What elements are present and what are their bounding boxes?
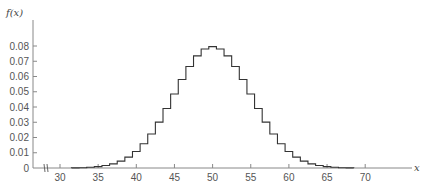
y-tick-label: 0.08: [10, 41, 30, 52]
y-tick-label: 0: [23, 163, 29, 174]
x-axis-label: x: [414, 162, 420, 173]
axis-break-mark: [47, 164, 48, 172]
y-tick-label: 0.06: [10, 71, 30, 82]
x-tick-label: 30: [54, 172, 66, 183]
x-tick-label: 35: [93, 172, 105, 183]
tick-labels: 00.010.020.030.040.050.060.070.083035404…: [5, 7, 420, 183]
x-tick-label: 65: [321, 172, 333, 183]
x-tick-label: 45: [169, 172, 181, 183]
probability-steps: [71, 47, 353, 168]
y-tick-label: 0.05: [10, 86, 30, 97]
step-chart: 00.010.020.030.040.050.060.070.083035404…: [0, 0, 425, 189]
y-tick-label: 0.01: [10, 147, 30, 158]
axes: [33, 20, 412, 172]
axis-break-mark: [44, 164, 45, 172]
step-series: [71, 47, 353, 168]
y-axis-label: f(x): [5, 7, 23, 18]
x-tick-label: 60: [283, 172, 295, 183]
y-tick-label: 0.07: [10, 56, 30, 67]
x-tick-label: 70: [360, 172, 372, 183]
x-tick-label: 50: [207, 172, 219, 183]
y-tick-label: 0.02: [10, 132, 30, 143]
x-tick-label: 55: [245, 172, 257, 183]
x-tick-label: 40: [131, 172, 143, 183]
y-tick-label: 0.04: [10, 102, 30, 113]
y-tick-label: 0.03: [10, 117, 30, 128]
